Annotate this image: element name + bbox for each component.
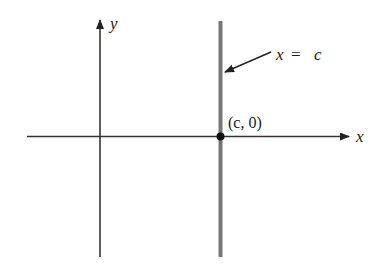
vertical-line-label-const: c [314, 45, 322, 64]
y-axis-label: y [108, 14, 118, 33]
x-axis-label: x [355, 127, 364, 146]
vertical-line-label-eq: = [291, 45, 301, 64]
leader-arrow [225, 52, 271, 72]
vertical-line-label-var: x [275, 45, 284, 64]
point-label: (c, 0) [228, 114, 262, 132]
point-c-0 [217, 133, 225, 141]
coordinate-diagram: y x x = c (c, 0) [0, 0, 391, 275]
